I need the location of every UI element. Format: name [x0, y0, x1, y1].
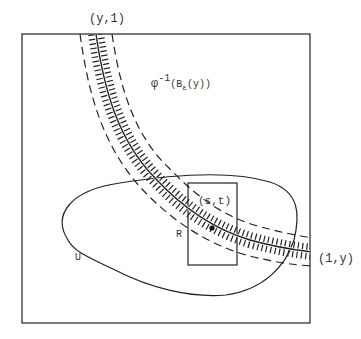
- preimage-close: (y)): [187, 79, 211, 90]
- epsilon-neighborhood: [80, 34, 312, 266]
- label-rect-R: R: [176, 229, 182, 240]
- label-preimage: φ-1(Bε(y)): [151, 73, 211, 92]
- band-boundary-right: [112, 34, 312, 238]
- preimage-exp: -1: [158, 73, 170, 84]
- label-top-point: (y,1): [89, 12, 125, 26]
- label-right-point: (1,y): [318, 252, 354, 266]
- diagram-canvas: (y,1) (1,y) φ-1(Bε(y)) (s,t) R U: [0, 0, 361, 339]
- preimage-phi: φ: [151, 77, 158, 91]
- curve: [96, 34, 312, 252]
- label-region-U: U: [75, 252, 81, 263]
- label-point-st: (s,t): [198, 195, 231, 207]
- point-st: [209, 225, 214, 230]
- preimage-open: (B: [170, 79, 182, 90]
